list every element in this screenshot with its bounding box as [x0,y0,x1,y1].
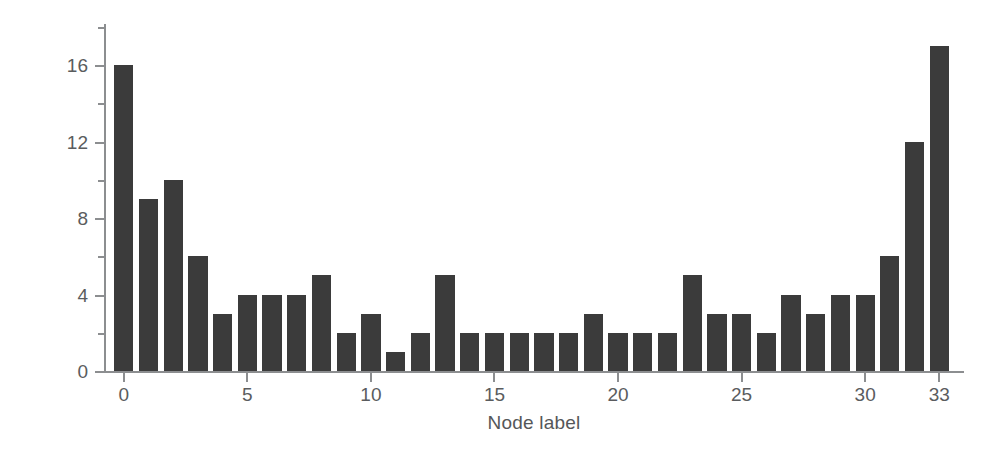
y-tick-label: 4 [77,285,88,307]
y-tick-major: 0 [95,371,104,373]
x-tick [864,373,866,382]
bar [880,256,899,371]
x-tick [123,373,125,382]
bar [460,333,479,371]
bar [188,256,207,371]
bar [534,333,553,371]
y-tick-major: 12 [95,142,104,144]
bar [707,314,726,371]
x-tick [246,373,248,382]
bar [312,275,331,371]
bar [435,275,454,371]
bar [608,333,627,371]
x-tick [617,373,619,382]
x-tick-label: 25 [731,384,752,406]
y-tick-label: 16 [67,55,88,77]
x-tick [938,373,940,382]
x-axis-label-text: Node label [488,412,581,433]
bar [213,314,232,371]
bar [411,333,430,371]
bar [238,295,257,371]
plot-area: 0481216 05101520253033 [104,24,964,372]
bar [287,295,306,371]
x-tick-label: 0 [118,384,129,406]
bar [683,275,702,371]
x-tick-label: 20 [607,384,628,406]
bar [114,65,133,371]
y-tick-label: 8 [77,208,88,230]
bar [337,333,356,371]
bar [262,295,281,371]
y-tick-major: 16 [95,65,104,67]
bar [831,295,850,371]
bar [584,314,603,371]
bar [781,295,800,371]
y-tick-major: 8 [95,218,104,220]
x-tick-label: 30 [855,384,876,406]
x-tick-label: 5 [242,384,253,406]
x-axis-label: Node label [104,412,964,434]
y-axis-label: Degree [8,0,48,459]
bar [510,333,529,371]
bar [559,333,578,371]
bar [905,142,924,371]
bar [164,180,183,371]
bar [930,46,949,371]
bar [633,333,652,371]
bar [139,199,158,371]
bar [757,333,776,371]
y-tick-label: 0 [77,361,88,383]
bar [386,352,405,371]
x-tick [741,373,743,382]
x-tick [370,373,372,382]
y-tick-major: 4 [95,295,104,297]
bar [856,295,875,371]
bar [806,314,825,371]
bar [732,314,751,371]
bars-layer [104,24,964,372]
degree-distribution-chart: Degree 0481216 05101520253033 Node label [0,0,1002,459]
x-tick [493,373,495,382]
x-tick-label: 33 [929,384,950,406]
bar [361,314,380,371]
bar [658,333,677,371]
bar [485,333,504,371]
x-tick-label: 15 [484,384,505,406]
y-tick-label: 12 [67,132,88,154]
x-tick-label: 10 [360,384,381,406]
